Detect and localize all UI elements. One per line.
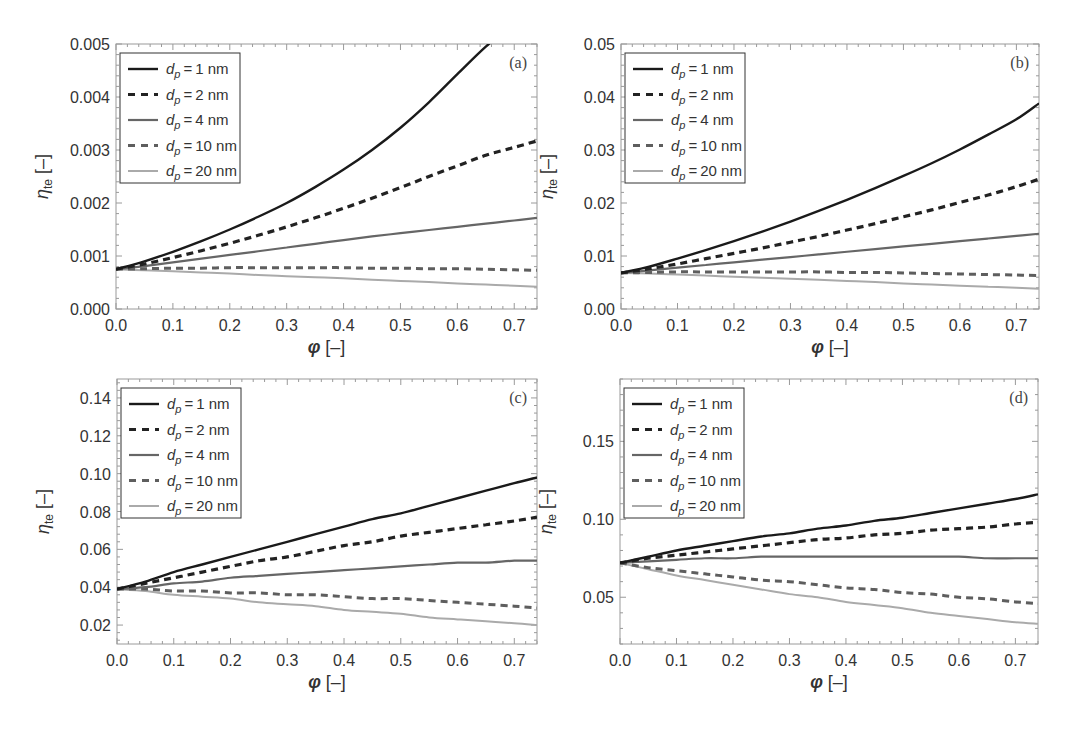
x-tick-label: 0.1 xyxy=(162,317,184,334)
y-tick-label: 0.10 xyxy=(583,511,614,528)
series-line xyxy=(117,589,537,608)
y-tick-label: 0.12 xyxy=(80,428,111,445)
x-tick-label: 0.3 xyxy=(778,652,800,669)
x-tick-label: 0.0 xyxy=(106,652,128,669)
x-tick-label: 0.4 xyxy=(835,652,857,669)
y-tick-label: 0.10 xyxy=(80,466,111,483)
y-axis-label: ηte [–] xyxy=(537,154,560,199)
panel-label: (c) xyxy=(509,389,527,407)
x-axis-label: φ [–] xyxy=(308,672,346,692)
series-line xyxy=(116,269,537,286)
x-tick-label: 0.0 xyxy=(609,652,631,669)
chart-panel-b: 0.00.10.20.30.40.50.60.70.000.010.020.03… xyxy=(537,36,1039,357)
y-axis-label: ηte [–] xyxy=(33,489,56,534)
x-tick-label: 0.6 xyxy=(949,317,971,334)
x-tick-label: 0.7 xyxy=(1004,652,1026,669)
y-tick-label: 0.02 xyxy=(584,195,615,212)
y-tick-label: 0.02 xyxy=(80,617,111,634)
legend: dp = 1 nmdp = 2 nmdp = 4 nmdp = 10 nmdp … xyxy=(624,388,744,518)
y-tick-label: 0.06 xyxy=(80,541,111,558)
x-tick-label: 0.1 xyxy=(665,652,687,669)
x-tick-label: 0.7 xyxy=(1005,317,1027,334)
panel-label: (d) xyxy=(1009,389,1028,407)
y-tick-label: 0.15 xyxy=(583,433,614,450)
y-tick-label: 0.03 xyxy=(584,142,615,159)
x-tick-label: 0.1 xyxy=(163,652,185,669)
y-tick-label: 0.14 xyxy=(80,390,111,407)
chart-panel-a: 0.00.10.20.30.40.50.60.70.0000.0010.0020… xyxy=(32,2,537,357)
chart-panel-d: 0.00.10.20.30.40.50.60.70.050.100.15φ [–… xyxy=(536,379,1038,692)
series-line xyxy=(116,218,537,269)
series-line xyxy=(620,557,1038,563)
legend: dp = 1 nmdp = 2 nmdp = 4 nmdp = 10 nmdp … xyxy=(121,388,241,518)
y-axis-label: ηte [–] xyxy=(32,154,55,199)
y-tick-label: 0.002 xyxy=(70,195,110,212)
x-axis-label: φ [–] xyxy=(308,337,346,357)
y-tick-label: 0.00 xyxy=(584,301,615,318)
x-tick-label: 0.7 xyxy=(503,317,525,334)
x-tick-label: 0.5 xyxy=(892,317,914,334)
y-tick-label: 0.04 xyxy=(80,579,111,596)
y-tick-label: 0.001 xyxy=(70,248,110,265)
series-line xyxy=(621,179,1039,273)
x-tick-label: 0.5 xyxy=(891,652,913,669)
x-tick-label: 0.1 xyxy=(666,317,688,334)
x-tick-label: 0.2 xyxy=(722,652,744,669)
x-tick-label: 0.2 xyxy=(723,317,745,334)
y-tick-label: 0.08 xyxy=(80,504,111,521)
x-tick-label: 0.4 xyxy=(332,317,354,334)
y-tick-label: 0.04 xyxy=(584,89,615,106)
x-tick-label: 0.4 xyxy=(836,317,858,334)
x-tick-label: 0.2 xyxy=(219,652,241,669)
x-tick-label: 0.0 xyxy=(105,317,127,334)
y-axis-label: ηte [–] xyxy=(536,489,559,534)
y-tick-label: 0.000 xyxy=(70,301,110,318)
x-tick-label: 0.7 xyxy=(503,652,525,669)
figure-canvas: 0.00.10.20.30.40.50.60.70.0000.0010.0020… xyxy=(0,0,1077,736)
series-line xyxy=(117,517,537,589)
chart-panel-c: 0.00.10.20.30.40.50.60.70.020.040.060.08… xyxy=(33,379,537,692)
x-tick-label: 0.2 xyxy=(219,317,241,334)
x-tick-label: 0.3 xyxy=(276,652,298,669)
legend: dp = 1 nmdp = 2 nmdp = 4 nmdp = 10 nmdp … xyxy=(120,53,240,183)
x-tick-label: 0.3 xyxy=(276,317,298,334)
series-line xyxy=(620,563,1038,604)
legend: dp = 1 nmdp = 2 nmdp = 4 nmdp = 10 nmdp … xyxy=(625,53,745,183)
figure: 0.00.10.20.30.40.50.60.70.0000.0010.0020… xyxy=(0,0,1077,736)
y-tick-label: 0.05 xyxy=(583,589,614,606)
series-line xyxy=(621,273,1039,289)
panel-label: (a) xyxy=(509,54,527,72)
x-tick-label: 0.4 xyxy=(333,652,355,669)
y-tick-label: 0.004 xyxy=(70,89,110,106)
x-axis-label: φ [–] xyxy=(810,672,848,692)
x-tick-label: 0.3 xyxy=(779,317,801,334)
series-line xyxy=(116,268,537,271)
y-tick-label: 0.05 xyxy=(584,36,615,53)
y-tick-label: 0.005 xyxy=(70,36,110,53)
x-tick-label: 0.0 xyxy=(610,317,632,334)
x-tick-label: 0.6 xyxy=(948,652,970,669)
x-tick-label: 0.5 xyxy=(389,317,411,334)
x-axis-label: φ [–] xyxy=(811,337,849,357)
x-tick-label: 0.5 xyxy=(390,652,412,669)
series-line xyxy=(621,234,1039,273)
panel-label: (b) xyxy=(1010,54,1029,72)
y-tick-label: 0.01 xyxy=(584,248,615,265)
x-tick-label: 0.6 xyxy=(446,652,468,669)
x-tick-label: 0.6 xyxy=(446,317,468,334)
y-tick-label: 0.003 xyxy=(70,142,110,159)
series-line xyxy=(117,561,537,590)
